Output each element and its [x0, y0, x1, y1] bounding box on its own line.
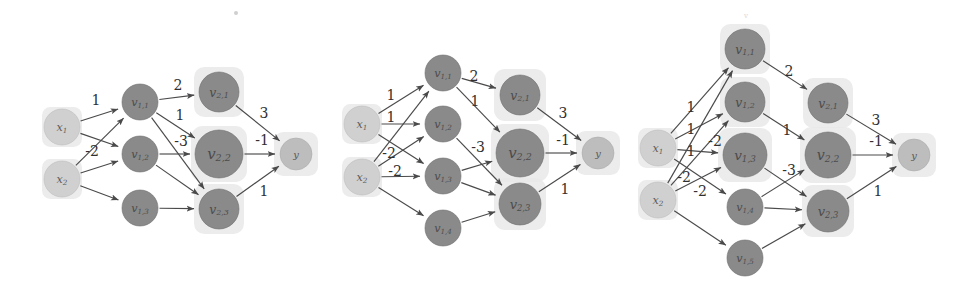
node-v22[interactable]: v2,2 — [496, 129, 544, 177]
node-v21[interactable]: v2,1 — [500, 75, 540, 115]
edge-v13-to-v23 — [461, 183, 495, 195]
neural-network-figure: x1x2v1,1v1,2v1,3v2,1v2,2v2,3y1-221-33-11… — [0, 0, 968, 294]
node-v23[interactable]: v2,3 — [499, 183, 541, 225]
node-v21[interactable]: v2,1 — [808, 83, 848, 123]
edge-x1-to-v13 — [677, 150, 718, 153]
edge-x1-to-v11 — [81, 109, 119, 121]
edge-weight-label: 3 — [260, 105, 269, 121]
node-v13[interactable]: v1,3 — [425, 158, 461, 194]
edge-v11-to-v21 — [462, 78, 496, 88]
edge-weight-label: -3 — [782, 162, 796, 178]
edge-weight-label: 1 — [387, 109, 396, 125]
edge-x1-to-v11 — [379, 85, 424, 113]
edge-weight-label: 1 — [687, 143, 696, 159]
faint-mark-top: v — [743, 12, 748, 20]
edge-x2-to-v13 — [80, 186, 118, 200]
node-v11[interactable]: v1,1 — [725, 29, 765, 69]
edge-weight-label: 1 — [260, 183, 269, 199]
edge-weight-label: -3 — [174, 133, 188, 149]
node-label: y — [292, 149, 299, 160]
edge-weight-label: 2 — [470, 68, 479, 84]
node-v22[interactable]: v2,2 — [805, 132, 851, 178]
edge-x2-to-v11 — [76, 118, 124, 165]
node-v12[interactable]: v1,2 — [122, 136, 158, 172]
node-v23[interactable]: v2,3 — [807, 190, 849, 232]
node-v13[interactable]: v1,3 — [122, 190, 158, 226]
node-v23[interactable]: v2,3 — [199, 189, 239, 229]
node-x2[interactable]: x2 — [640, 182, 676, 218]
node-v21[interactable]: v2,1 — [199, 72, 239, 112]
edge-x2-to-v14 — [379, 187, 424, 215]
edge-weight-label: 3 — [559, 105, 568, 121]
edge-weight-label: -2 — [677, 169, 691, 185]
edge-weight-label: -2 — [85, 143, 99, 159]
node-x2[interactable]: x2 — [44, 161, 80, 197]
edge-weight-label: 3 — [872, 112, 881, 128]
edge-v14-to-v23 — [462, 212, 496, 222]
speck-top — [234, 11, 238, 15]
diagram-layer: x1x2v1,1v1,2v1,3v2,1v2,2v2,3y1-221-33-11… — [42, 11, 936, 276]
edge-v15-to-v23 — [762, 224, 805, 249]
node-label: y — [910, 150, 917, 161]
edge-weight-label: 1 — [92, 92, 101, 108]
node-v14[interactable]: v1,4 — [425, 210, 461, 246]
edge-x1-to-v11 — [671, 68, 729, 134]
edge-weight-label: -2 — [693, 183, 707, 199]
node-x2[interactable]: x2 — [344, 159, 380, 195]
network-middle: x1x2v1,1v1,2v1,3v1,4v2,1v2,2v2,3y11-2-22… — [342, 55, 620, 246]
edge-weight-label: -3 — [471, 139, 485, 155]
node-x1[interactable]: x1 — [44, 109, 80, 145]
edge-x2-to-v12 — [81, 161, 119, 173]
edge-weight-label: 2 — [785, 63, 794, 79]
node-v14[interactable]: v1,4 — [727, 189, 763, 225]
edge-weight-label: 1 — [471, 93, 480, 109]
network-right: x1x2v1,1v1,2v1,3v1,4v1,5v2,1v2,2v2,3y111… — [638, 24, 936, 276]
edge-weight-label: 2 — [174, 77, 183, 93]
edge-x2-to-v15 — [674, 211, 726, 245]
edge-v13-to-v22 — [462, 161, 493, 170]
edge-weight-label: 1 — [561, 181, 570, 197]
edge-group — [668, 61, 897, 249]
node-y[interactable]: y — [898, 139, 930, 171]
node-v13[interactable]: v1,3 — [723, 133, 767, 177]
node-y[interactable]: y — [280, 138, 312, 170]
node-v12[interactable]: v1,2 — [425, 106, 461, 142]
edge-weight-label: 1 — [387, 87, 396, 103]
node-v22[interactable]: v2,2 — [195, 130, 243, 178]
edge-weight-label: 1 — [176, 107, 185, 123]
edge-weight-label: -2 — [708, 133, 722, 149]
node-v11[interactable]: v1,1 — [425, 55, 461, 91]
node-v15[interactable]: v1,5 — [727, 240, 763, 276]
edge-weight-label: -1 — [869, 133, 883, 149]
edge-weight-label: 1 — [687, 121, 696, 137]
edge-weight-label: -1 — [255, 132, 269, 148]
edge-weight-label: 1 — [687, 99, 696, 115]
edge-weight-label: 1 — [783, 122, 792, 138]
node-label: y — [594, 148, 601, 159]
edge-weight-label: -2 — [388, 163, 402, 179]
node-x1[interactable]: x1 — [640, 130, 676, 166]
figure-canvas: x1x2v1,1v1,2v1,3v2,1v2,2v2,3y1-221-33-11… — [0, 0, 968, 294]
node-v11[interactable]: v1,1 — [122, 84, 158, 120]
edge-weight-label: -1 — [556, 132, 570, 148]
node-y[interactable]: y — [582, 137, 614, 169]
edge-v14-to-v23 — [764, 208, 802, 210]
network-left: x1x2v1,1v1,2v1,3v2,1v2,2v2,3y1-221-33-11 — [42, 67, 318, 234]
edge-weight-label: -2 — [382, 145, 396, 161]
edge-v11-to-v21 — [159, 95, 194, 99]
node-v12[interactable]: v1,2 — [725, 82, 765, 122]
node-x1[interactable]: x1 — [344, 106, 380, 142]
edge-weight-label: 1 — [874, 183, 883, 199]
